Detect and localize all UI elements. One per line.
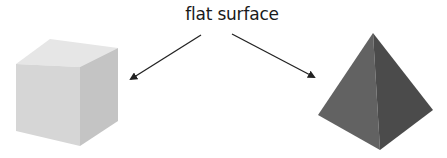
cube-front-face [16, 64, 80, 146]
arrow-to-pyramid [232, 34, 314, 77]
cube-shape [16, 39, 118, 146]
diagram-canvas: flat surface [0, 0, 447, 158]
flat-surface-label: flat surface [172, 4, 292, 24]
pyramid-left-face [318, 33, 380, 150]
pyramid-shape [318, 33, 433, 150]
arrow-to-cube [131, 35, 201, 79]
pyramid-right-face [373, 33, 433, 150]
